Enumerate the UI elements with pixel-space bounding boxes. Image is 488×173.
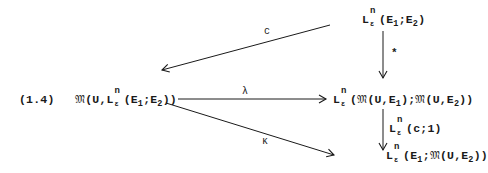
equation-number: (1.4) — [19, 94, 55, 106]
arrow-kappa — [166, 103, 334, 155]
l-symbol: Lnε — [107, 94, 124, 106]
label-lambda: λ — [242, 87, 248, 97]
l-symbol: Lnε — [386, 150, 403, 162]
l-symbol: Lnε — [333, 94, 350, 106]
node-top-right: Lnε(E1;E2) — [362, 14, 425, 26]
label-kappa: κ — [262, 137, 268, 147]
arrow-c — [162, 25, 330, 70]
frak-m: 𝔐 — [75, 93, 85, 106]
label-lc1: Lnε(c;1) — [389, 123, 442, 135]
node-left: 𝔐(U,Lnε(E1;E2)) — [75, 94, 177, 106]
l-symbol: Lnε — [362, 14, 379, 26]
l-symbol: Lnε — [389, 123, 406, 135]
node-bottom-right: Lnε(E1;𝔐(U,E2)) — [386, 150, 488, 162]
label-star: * — [391, 48, 398, 59]
label-c: c — [264, 27, 270, 37]
node-middle-right: Lnε(𝔐(U,E1);𝔐(U,E2)) — [333, 94, 473, 106]
